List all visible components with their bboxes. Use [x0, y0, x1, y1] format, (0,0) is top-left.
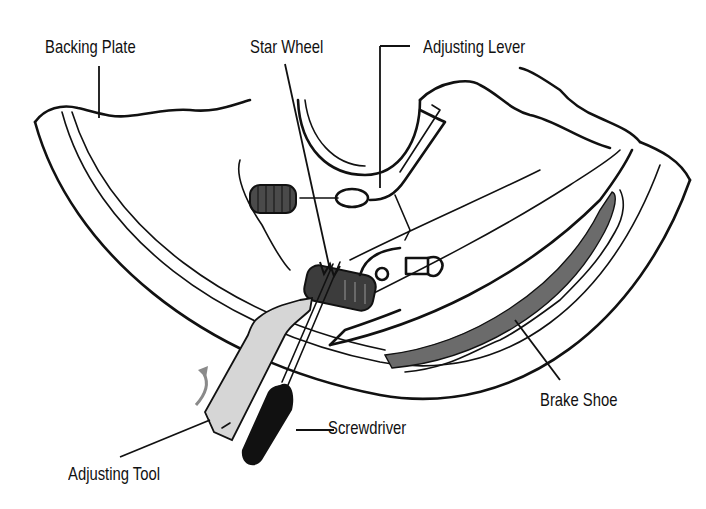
label-brake-shoe: Brake Shoe — [540, 389, 617, 411]
hub-opening — [298, 100, 420, 175]
rotation-arrow-icon — [196, 366, 208, 405]
label-adjusting-tool: Adjusting Tool — [68, 463, 160, 485]
label-adjusting-lever: Adjusting Lever — [423, 36, 525, 58]
label-screwdriver: Screwdriver — [328, 417, 406, 439]
return-spring — [239, 160, 296, 270]
label-backing-plate: Backing Plate — [45, 36, 136, 58]
label-star-wheel: Star Wheel — [250, 36, 323, 58]
brake-shoe-web — [330, 81, 632, 345]
star-wheel — [302, 262, 378, 313]
adjusting-lever — [300, 105, 445, 240]
